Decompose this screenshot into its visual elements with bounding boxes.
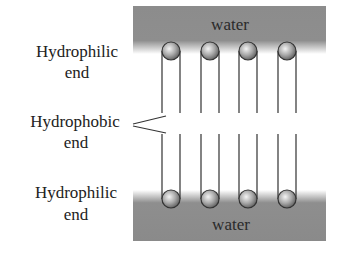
lipid-bilayer-diagram: water water Hydrophilic end Hydrophobic … bbox=[0, 0, 340, 253]
hydrophilic-head bbox=[162, 42, 180, 60]
bottom-water-label: water bbox=[212, 215, 250, 234]
lipid-tail bbox=[278, 134, 296, 199]
lipid-tail bbox=[201, 134, 219, 199]
lipid-tail bbox=[239, 134, 257, 199]
hydrophilic-head bbox=[278, 42, 296, 60]
top-water-label: water bbox=[211, 15, 249, 34]
hydrophilic-head bbox=[162, 190, 180, 208]
hydrophobic-pointer bbox=[133, 116, 166, 133]
top-monolayer bbox=[162, 51, 296, 113]
lipid-tail bbox=[162, 134, 180, 199]
top-hydrophilic-end-label: end bbox=[65, 63, 90, 82]
hydrophilic-head bbox=[278, 190, 296, 208]
bottom-monolayer bbox=[162, 134, 296, 199]
hydrophobic-end-label: end bbox=[64, 133, 89, 152]
hydrophobic-label: Hydrophobic bbox=[30, 112, 120, 131]
hydrophilic-head bbox=[239, 42, 257, 60]
hydrophilic-head bbox=[201, 190, 219, 208]
bottom-hydrophilic-end-label: end bbox=[64, 205, 89, 224]
hydrophilic-head bbox=[239, 190, 257, 208]
bottom-hydrophilic-label: Hydrophilic bbox=[35, 183, 118, 202]
hydrophilic-head bbox=[201, 42, 219, 60]
top-hydrophilic-label: Hydrophilic bbox=[36, 42, 119, 61]
